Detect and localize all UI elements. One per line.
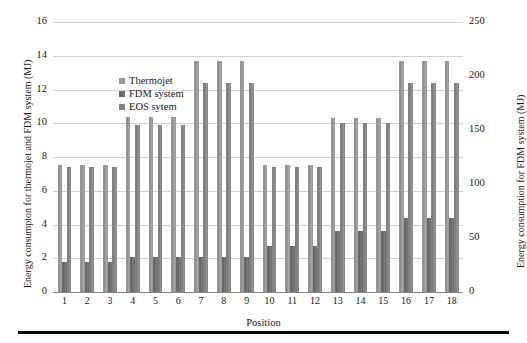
bar-group <box>258 22 281 292</box>
y-axis-right-tick-label: 250 <box>469 16 501 27</box>
bar-group <box>418 22 441 292</box>
x-axis-ticks: 123456789101112131415161718 <box>53 296 463 310</box>
x-axis-tick-label: 7 <box>190 296 213 310</box>
bar-eos-sytem <box>89 167 94 292</box>
legend-item: FDM system <box>119 87 184 100</box>
y-axis-left-tick-label: 2 <box>19 252 47 263</box>
x-axis-tick-label: 13 <box>326 296 349 310</box>
bar-eos-sytem <box>112 167 117 292</box>
bar-eos-sytem <box>272 167 277 292</box>
y-axis-left-tick-label: 6 <box>19 185 47 196</box>
bar-eos-sytem <box>363 123 368 292</box>
bar-group <box>235 22 258 292</box>
bar-eos-sytem <box>431 83 436 292</box>
bar-group <box>372 22 395 292</box>
bar-eos-sytem <box>158 125 163 292</box>
y-axis-right-tick-label: 100 <box>469 178 501 189</box>
bottom-divider <box>18 331 509 334</box>
gridline <box>53 292 463 293</box>
bar-eos-sytem <box>203 83 208 292</box>
legend-item: Thermojet <box>119 74 184 87</box>
bar-group <box>190 22 213 292</box>
bar-group <box>121 22 144 292</box>
bar-eos-sytem <box>295 167 300 292</box>
bar-group <box>304 22 327 292</box>
y-axis-left-tick-label: 4 <box>19 219 47 230</box>
legend-item-label: EOS sytem <box>129 100 177 113</box>
legend-item-label: Thermojet <box>129 74 173 87</box>
y-axis-right-tick-label: 50 <box>469 232 501 243</box>
bar-eos-sytem <box>135 125 140 292</box>
x-axis-tick-label: 1 <box>53 296 76 310</box>
x-axis-tick-label: 12 <box>304 296 327 310</box>
bar-eos-sytem <box>249 83 254 292</box>
x-axis-tick-label: 10 <box>258 296 281 310</box>
bar-eos-sytem <box>226 83 231 292</box>
x-axis-tick-label: 2 <box>76 296 99 310</box>
bar-eos-sytem <box>408 83 413 292</box>
bar-eos-sytem <box>317 167 322 292</box>
y-axis-right-tick-label: 0 <box>469 286 501 297</box>
bar-group <box>212 22 235 292</box>
bar-eos-sytem <box>340 123 345 292</box>
x-axis-tick-label: 15 <box>372 296 395 310</box>
x-axis-tick-label: 9 <box>235 296 258 310</box>
chart-legend: ThermojetFDM systemEOS sytem <box>119 74 184 113</box>
x-axis-tick-label: 5 <box>144 296 167 310</box>
y-axis-right-title: Energy consumption for FDM system (MJ) <box>515 95 526 268</box>
y-axis-left-tick-label: 8 <box>19 151 47 162</box>
y-axis-left-tick-label: 0 <box>19 286 47 297</box>
x-axis-title: Position <box>0 317 527 328</box>
bar-group <box>53 22 76 292</box>
x-axis-tick-label: 6 <box>167 296 190 310</box>
x-axis-tick-label: 16 <box>395 296 418 310</box>
bar-group <box>440 22 463 292</box>
legend-item-label: FDM system <box>129 87 184 100</box>
legend-swatch-icon <box>119 78 125 84</box>
figure-container: Energy consumpton for thermojet and FDM … <box>0 0 527 343</box>
bar-group <box>99 22 122 292</box>
bar-group <box>167 22 190 292</box>
bar-group <box>144 22 167 292</box>
bar-group <box>326 22 349 292</box>
bar-group <box>281 22 304 292</box>
bar-group <box>395 22 418 292</box>
x-axis-tick-label: 8 <box>212 296 235 310</box>
x-axis-tick-label: 14 <box>349 296 372 310</box>
x-axis-tick-label: 4 <box>121 296 144 310</box>
y-axis-left-tick-label: 10 <box>19 117 47 128</box>
y-axis-left-tick-label: 12 <box>19 84 47 95</box>
legend-swatch-icon <box>119 104 125 110</box>
bar-group <box>76 22 99 292</box>
x-axis-tick-label: 11 <box>281 296 304 310</box>
y-axis-right-tick-label: 150 <box>469 124 501 135</box>
bar-eos-sytem <box>181 125 186 292</box>
legend-swatch-icon <box>119 91 125 97</box>
bar-eos-sytem <box>67 167 72 292</box>
legend-item: EOS sytem <box>119 100 184 113</box>
y-axis-right-tick-label: 200 <box>469 70 501 81</box>
y-axis-left-tick-label: 14 <box>19 50 47 61</box>
bar-group <box>349 22 372 292</box>
x-axis-tick-label: 3 <box>99 296 122 310</box>
x-axis-tick-label: 17 <box>418 296 441 310</box>
bar-eos-sytem <box>386 123 391 292</box>
bar-eos-sytem <box>454 83 459 292</box>
x-axis-tick-label: 18 <box>440 296 463 310</box>
y-axis-left-tick-label: 16 <box>19 16 47 27</box>
bar-groups <box>53 22 463 292</box>
plot-area: 0246810121416 050100150200250 ThermojetF… <box>53 22 463 292</box>
